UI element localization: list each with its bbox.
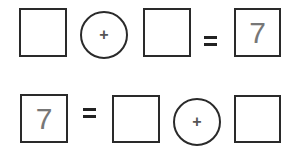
equals-sign-icon [83, 108, 96, 118]
answer-box-b[interactable] [143, 8, 191, 57]
answer-box-a[interactable] [112, 95, 160, 143]
answer-box-b[interactable] [234, 95, 281, 143]
equals-sign-icon [204, 36, 217, 46]
result-box: 7 [20, 94, 68, 143]
plus-operator-circle: + [80, 11, 128, 59]
plus-operator-circle: + [173, 98, 221, 146]
answer-box-a[interactable] [19, 8, 67, 57]
result-box: 7 [234, 8, 281, 57]
